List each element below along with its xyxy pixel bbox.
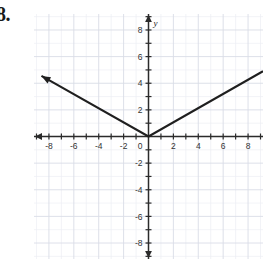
svg-text:8: 8 [246, 141, 251, 151]
worksheet-figure: 8. -8-6-4-2024688642-2-4-6-8 y [0, 0, 263, 259]
svg-text:-6: -6 [70, 141, 78, 151]
svg-text:-6: -6 [135, 212, 143, 222]
svg-text:-8: -8 [135, 238, 143, 248]
axis-name-labels: y [153, 18, 158, 28]
svg-text:0: 0 [138, 141, 143, 151]
coordinate-plane: -8-6-4-2024688642-2-4-6-8 y [34, 14, 263, 259]
svg-text:2: 2 [138, 105, 143, 115]
svg-text:-8: -8 [45, 141, 53, 151]
graph-svg: -8-6-4-2024688642-2-4-6-8 y [34, 14, 263, 259]
data-series-curve [41, 71, 263, 136]
svg-text:6: 6 [138, 52, 143, 62]
svg-text:-2: -2 [120, 141, 128, 151]
svg-text:8: 8 [138, 25, 143, 35]
svg-text:y: y [153, 18, 158, 28]
svg-text:-4: -4 [95, 141, 103, 151]
svg-text:6: 6 [221, 141, 226, 151]
svg-text:4: 4 [196, 141, 201, 151]
svg-text:4: 4 [138, 78, 143, 88]
svg-text:2: 2 [171, 141, 176, 151]
svg-text:-4: -4 [135, 185, 143, 195]
problem-number-label: 8. [0, 4, 10, 24]
svg-text:-2: -2 [135, 158, 143, 168]
